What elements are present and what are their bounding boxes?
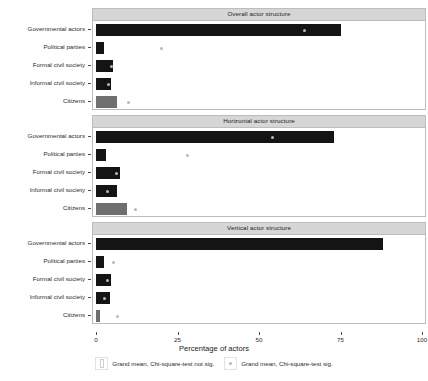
y-axis-tick-mark xyxy=(88,83,91,84)
panel-1: Overall actor structure xyxy=(92,8,426,110)
y-axis-tick-label: Informal civil society xyxy=(30,288,85,306)
panel-title-strip: Overall actor structure xyxy=(92,8,426,20)
panel-title: Horizontal actor structure xyxy=(223,118,295,124)
bar-row xyxy=(93,21,425,39)
bar-row xyxy=(93,146,425,164)
x-axis-tick-label: 25 xyxy=(174,336,181,343)
y-axis-tick-mark xyxy=(88,243,91,244)
y-axis-tick-mark xyxy=(88,65,91,66)
grand-mean-marker xyxy=(186,154,189,157)
grand-mean-marker xyxy=(110,65,113,68)
bar-row xyxy=(93,93,425,111)
y-axis-tick-label: Informal civil society xyxy=(30,181,85,199)
y-axis-tick-mark xyxy=(88,297,91,298)
x-axis-tick-label: 100 xyxy=(417,336,427,343)
bar-row xyxy=(93,164,425,182)
x-axis-tick-mark xyxy=(341,332,342,335)
y-axis-tick-label: Formal civil society xyxy=(33,270,85,288)
y-axis-tick-mark xyxy=(88,261,91,262)
y-axis-tick-label: Citizens xyxy=(63,199,85,217)
y-axis-tick-label: Governmental actors xyxy=(28,20,85,38)
y-axis-tick-label: Formal civil society xyxy=(33,56,85,74)
bar-row xyxy=(93,200,425,218)
x-axis-tick-label: 75 xyxy=(337,336,344,343)
grand-mean-marker xyxy=(303,29,306,32)
grand-mean-marker xyxy=(127,101,130,104)
x-axis-tick-mark xyxy=(259,332,260,335)
grand-mean-marker xyxy=(271,136,274,139)
grand-mean-marker xyxy=(116,315,119,318)
bar-row xyxy=(93,128,425,146)
y-axis-tick-mark xyxy=(88,136,91,137)
x-axis-title: Percentage of actors xyxy=(0,344,428,353)
bar-row xyxy=(93,57,425,75)
x-axis-tick-label: 0 xyxy=(94,336,97,343)
y-axis-tick-label: Political parties xyxy=(43,252,85,270)
bar xyxy=(96,238,383,250)
y-axis-tick-mark xyxy=(88,190,91,191)
y-axis-tick-mark xyxy=(88,29,91,30)
legend-item: Grand mean, Chi-square-test not sig. xyxy=(95,357,214,370)
bar-row xyxy=(93,39,425,57)
grand-mean-marker xyxy=(134,208,137,211)
plot-area xyxy=(92,127,426,217)
bar xyxy=(96,256,104,268)
panel-title-strip: Horizontal actor structure xyxy=(92,115,426,127)
panel-title-strip: Vertical actor structure xyxy=(92,222,426,234)
y-axis-tick-mark xyxy=(88,47,91,48)
plot-area xyxy=(92,20,426,110)
panel-3: Vertical actor structure xyxy=(92,222,426,324)
chart-legend: Grand mean, Chi-square-test not sig.Gran… xyxy=(0,357,428,370)
plot-inner xyxy=(93,21,425,109)
grand-mean-marker xyxy=(112,261,115,264)
grand-mean-marker xyxy=(106,190,109,193)
x-axis-tick-mark xyxy=(422,332,423,335)
bar xyxy=(96,42,104,54)
y-axis-tick-label: Formal civil society xyxy=(33,163,85,181)
legend-label: Grand mean, Chi-square-test sig. xyxy=(241,360,332,367)
y-axis-tick-label: Political parties xyxy=(43,145,85,163)
panel-2: Horizontal actor structure xyxy=(92,115,426,217)
legend-item: Grand mean, Chi-square-test sig. xyxy=(224,357,332,370)
bar-row xyxy=(93,307,425,325)
panel-title: Vertical actor structure xyxy=(227,225,291,231)
panel-title: Overall actor structure xyxy=(227,11,290,17)
chart-container: Governmental actorsPolitical partiesForm… xyxy=(0,0,428,381)
y-axis-tick-mark xyxy=(88,172,91,173)
legend-key-bar-outline-icon xyxy=(95,357,108,370)
y-axis-tick-label: Informal civil society xyxy=(30,74,85,92)
bar xyxy=(96,131,334,143)
bar-row xyxy=(93,253,425,271)
x-axis-tick-mark xyxy=(178,332,179,335)
grand-mean-marker xyxy=(107,83,110,86)
y-axis-tick-label: Citizens xyxy=(63,92,85,110)
plot-area xyxy=(92,234,426,324)
y-axis-tick-label: Political parties xyxy=(43,38,85,56)
grand-mean-marker xyxy=(106,279,109,282)
y-axis-tick-mark xyxy=(88,315,91,316)
plot-inner xyxy=(93,128,425,216)
grand-mean-marker xyxy=(115,172,118,175)
y-axis-tick-label: Citizens xyxy=(63,306,85,324)
y-axis-tick-mark xyxy=(88,279,91,280)
bar-icon xyxy=(100,359,104,368)
y-axis-tick-label: Governmental actors xyxy=(28,234,85,252)
dot-icon xyxy=(229,362,232,365)
x-axis-tick-mark xyxy=(96,332,97,335)
y-axis-tick-label: Governmental actors xyxy=(28,127,85,145)
bar-row xyxy=(93,271,425,289)
bar-row xyxy=(93,182,425,200)
legend-key-dot-icon xyxy=(224,357,237,370)
bar xyxy=(96,149,106,161)
bar xyxy=(96,203,127,215)
plot-inner xyxy=(93,235,425,323)
bar-row xyxy=(93,235,425,253)
x-axis-tick-label: 50 xyxy=(256,336,263,343)
bar xyxy=(96,310,100,322)
y-axis-tick-mark xyxy=(88,154,91,155)
bar-row xyxy=(93,75,425,93)
grand-mean-marker xyxy=(103,297,106,300)
bar-row xyxy=(93,289,425,307)
legend-label: Grand mean, Chi-square-test not sig. xyxy=(112,360,214,367)
bar xyxy=(96,96,117,108)
